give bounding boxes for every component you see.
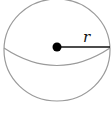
radius-label: r xyxy=(83,28,91,46)
sphere-diagram: r xyxy=(0,0,112,115)
center-point xyxy=(53,43,62,52)
